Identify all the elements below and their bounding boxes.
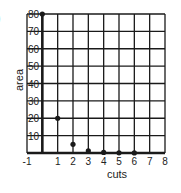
y-tick-label: 60 <box>28 44 40 55</box>
y-tick-label: 50 <box>28 61 40 72</box>
y-tick-label: 80 <box>28 9 40 20</box>
y-tick-label: 10 <box>28 131 40 142</box>
x-tick-labels: -112345678 <box>23 156 169 167</box>
data-point <box>132 150 137 155</box>
x-tick-label: -1 <box>23 156 32 167</box>
scatter-chart: 1020304050607080 -112345678 cuts area <box>0 0 181 193</box>
x-tick-label: 2 <box>70 156 76 167</box>
x-tick-label: 5 <box>116 156 122 167</box>
data-point <box>40 11 45 16</box>
y-tick-label: 40 <box>28 79 40 90</box>
x-tick-label: 7 <box>147 156 153 167</box>
y-tick-label: 70 <box>28 26 40 37</box>
data-point <box>55 116 60 121</box>
x-tick-label: 1 <box>55 156 61 167</box>
x-tick-label: 8 <box>162 156 168 167</box>
x-tick-label: 4 <box>101 156 107 167</box>
data-point <box>86 148 91 153</box>
y-tick-label: 30 <box>28 96 40 107</box>
data-point <box>101 150 106 155</box>
data-point <box>116 150 121 155</box>
x-axis-label: cuts <box>107 168 128 180</box>
y-tick-label: 20 <box>28 113 40 124</box>
x-tick-label: 6 <box>132 156 138 167</box>
x-tick-label: 3 <box>86 156 92 167</box>
y-tick-labels: 1020304050607080 <box>28 9 40 142</box>
y-axis-label: area <box>13 68 25 91</box>
chart-grid <box>27 14 165 153</box>
data-point <box>70 142 75 147</box>
